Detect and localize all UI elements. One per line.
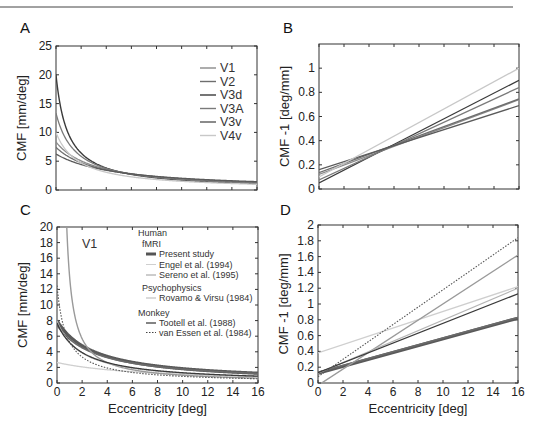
y-tick-label: 0.6 — [297, 329, 314, 343]
legend-entry: Tootell et al. (1988) — [159, 318, 236, 328]
panel-a: A0510152025CMF [mm/deg]V1V2V3dV3AV3vV4v — [14, 19, 257, 197]
panel-label: B — [283, 19, 293, 36]
y-tick-label: 10 — [40, 298, 54, 312]
y-tick-label: 2 — [46, 360, 53, 374]
y-tick-label: 1.6 — [297, 250, 314, 264]
y-tick-label: 8 — [46, 314, 53, 328]
y-tick-label: 15 — [39, 97, 53, 111]
y-tick-label: 1.8 — [297, 234, 314, 248]
y-tick-label: 0.2 — [297, 360, 314, 374]
x-tick-label: 8 — [154, 385, 161, 399]
svg-text:fMRI: fMRI — [142, 239, 161, 249]
x-axis-label: Eccentricity [deg] — [108, 401, 207, 416]
legend-entry: V4v — [220, 129, 242, 143]
series-line — [319, 68, 519, 177]
y-tick-label: 2 — [307, 218, 314, 232]
svg-text:Monkey: Monkey — [138, 308, 170, 318]
y-tick-label: 5 — [45, 154, 52, 168]
y-tick-label: 20 — [39, 68, 53, 82]
x-tick-label: 2 — [79, 385, 86, 399]
legend-entry: V3A — [220, 102, 244, 116]
x-tick-label: 6 — [129, 385, 136, 399]
x-tick-label: 8 — [415, 385, 422, 399]
x-axis-label: Eccentricity [deg] — [369, 401, 468, 416]
series-line — [319, 99, 519, 173]
x-tick-label: 12 — [201, 385, 215, 399]
y-tick-label: 1.4 — [297, 265, 314, 279]
series-line — [318, 294, 518, 373]
x-tick-label: 14 — [486, 385, 500, 399]
x-tick-label: 4 — [365, 385, 372, 399]
x-tick-label: 12 — [461, 385, 475, 399]
y-tick-label: 0.4 — [298, 134, 315, 148]
series-line — [319, 88, 519, 180]
y-tick-label: 0.8 — [298, 85, 315, 99]
x-tick-label: 10 — [436, 385, 450, 399]
x-tick-label: 0 — [54, 385, 61, 399]
y-tick-label: 1.2 — [297, 281, 314, 295]
y-axis-label: CMF [mm/deg] — [14, 75, 29, 161]
y-tick-label: 18 — [40, 236, 54, 250]
y-tick-label: 1 — [308, 61, 315, 75]
svg-text:Psychophysics: Psychophysics — [142, 283, 202, 293]
legend-entry: Sereno et al. (1995) — [159, 270, 239, 280]
y-tick-label: 0.8 — [297, 313, 314, 327]
legend-entry: V3d — [220, 88, 242, 102]
legend-entry: V1 — [220, 61, 235, 75]
panel-b: B00.20.40.60.81CMF -1 [deg/mm] — [277, 19, 519, 196]
svg-text:Human: Human — [138, 228, 167, 238]
legend: HumanfMRIPresent studyEngel et al. (1994… — [138, 228, 252, 338]
y-tick-label: 0 — [308, 182, 315, 196]
series-line — [318, 255, 518, 385]
y-tick-label: 20 — [40, 220, 54, 234]
y-tick-label: 10 — [39, 125, 53, 139]
y-tick-label: 0.2 — [298, 158, 315, 172]
legend-entry: V2 — [220, 75, 235, 89]
y-tick-label: 0 — [307, 376, 314, 390]
y-tick-label: 0.6 — [298, 110, 315, 124]
x-tick-label: 4 — [104, 385, 111, 399]
y-tick-label: 16 — [40, 251, 54, 265]
series-line — [319, 80, 519, 183]
legend-entry: Engel et al. (1994) — [159, 260, 233, 270]
panel-label: C — [20, 201, 31, 218]
panel-d: D024681012141600.20.40.60.811.21.41.61.8… — [276, 201, 525, 416]
y-tick-label: 0 — [46, 376, 53, 390]
axes-frame — [318, 225, 518, 383]
y-tick-label: 1 — [307, 297, 314, 311]
panel-label: A — [20, 19, 30, 36]
y-axis-label: CMF [mm/deg] — [15, 262, 30, 348]
x-tick-label: 16 — [251, 385, 265, 399]
y-axis-label: CMF -1 [deg/mm] — [276, 253, 291, 354]
y-tick-label: 0.4 — [297, 344, 314, 358]
x-tick-label: 6 — [390, 385, 397, 399]
series-line — [318, 238, 518, 377]
legend-entry: Present study — [159, 249, 215, 259]
series-line — [318, 317, 518, 372]
x-tick-label: 0 — [315, 385, 322, 399]
x-tick-label: 2 — [340, 385, 347, 399]
y-axis-label: CMF -1 [deg/mm] — [277, 66, 292, 167]
legend-entry: V3v — [220, 115, 242, 129]
panel-label: D — [280, 201, 291, 218]
y-tick-label: 0 — [45, 183, 52, 197]
y-tick-label: 25 — [39, 39, 53, 53]
y-tick-label: 14 — [40, 267, 54, 281]
x-tick-label: 10 — [176, 385, 190, 399]
x-tick-label: 14 — [226, 385, 240, 399]
y-tick-label: 6 — [46, 329, 53, 343]
y-tick-label: 4 — [46, 345, 53, 359]
figure-canvas: A0510152025CMF [mm/deg]V1V2V3dV3AV3vV4v … — [0, 0, 538, 426]
x-tick-label: 16 — [511, 385, 525, 399]
legend-entry: van Essen et al. (1984) — [159, 328, 252, 338]
legend-entry: Rovamo & Virsu (1984) — [159, 293, 252, 303]
y-tick-label: 12 — [40, 282, 54, 296]
region-annotation: V1 — [82, 237, 97, 251]
